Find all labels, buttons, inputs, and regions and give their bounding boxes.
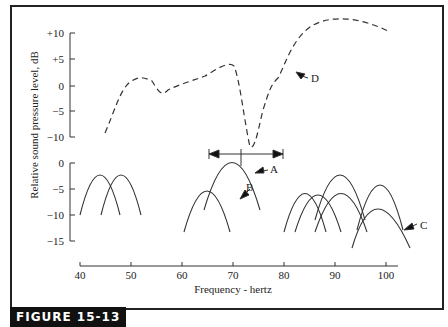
svg-text:50: 50 bbox=[126, 269, 138, 281]
svg-text:−10: −10 bbox=[47, 209, 65, 221]
chart: +10 +5 0 −5 −10 0 −5 −10 −15 40 50 60 70… bbox=[0, 0, 448, 327]
svg-text:0: 0 bbox=[59, 80, 65, 92]
svg-text:0: 0 bbox=[59, 157, 65, 169]
svg-text:+10: +10 bbox=[47, 27, 65, 39]
svg-text:80: 80 bbox=[279, 269, 291, 281]
label-a: A bbox=[270, 163, 278, 175]
svg-text:40: 40 bbox=[75, 269, 87, 281]
label-b: B bbox=[246, 181, 253, 193]
svg-text:Relative sound pressure level,: Relative sound pressure level, dB bbox=[28, 51, 40, 199]
tick-labels: +10 +5 0 −5 −10 0 −5 −10 −15 40 50 60 70… bbox=[28, 27, 427, 295]
svg-text:+5: +5 bbox=[52, 53, 64, 65]
svg-text:90: 90 bbox=[330, 269, 342, 281]
svg-text:−10: −10 bbox=[47, 131, 65, 143]
svg-text:70: 70 bbox=[228, 269, 240, 281]
svg-text:−15: −15 bbox=[47, 235, 65, 247]
label-d: D bbox=[311, 72, 319, 84]
curve-d bbox=[105, 19, 390, 148]
label-c: C bbox=[420, 219, 427, 231]
svg-text:−5: −5 bbox=[52, 105, 64, 117]
svg-text:100: 100 bbox=[378, 269, 395, 281]
figure-caption: FIGURE 15-13 bbox=[10, 307, 126, 327]
svg-text:−5: −5 bbox=[52, 183, 64, 195]
upper-y-ticks bbox=[70, 33, 75, 137]
svg-text:Frequency - hertz: Frequency - hertz bbox=[194, 283, 272, 295]
svg-text:60: 60 bbox=[177, 269, 189, 281]
